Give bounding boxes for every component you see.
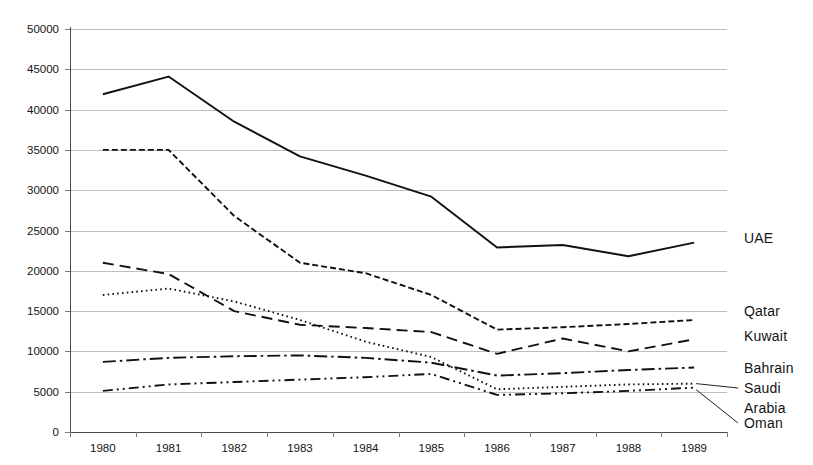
y-tick-label: 45000: [27, 63, 59, 75]
x-tick-label: 1986: [484, 442, 510, 454]
y-axis-tick-labels: 0500010000150002000025000300003500040000…: [27, 23, 70, 438]
x-tick-label: 1984: [353, 442, 379, 454]
series-label-saudi-arabia: Saudi: [744, 380, 781, 396]
y-tick-label: 0: [53, 426, 59, 438]
y-tick-label: 40000: [27, 104, 59, 116]
series-line-bahrain: [103, 355, 694, 375]
leader-lines-group: [696, 384, 738, 423]
series-label-kuwait: Kuwait: [744, 328, 787, 344]
leader-line-saudi-arabia: [696, 384, 738, 388]
series-label-uae: UAE: [744, 230, 773, 246]
y-tick-label: 25000: [27, 225, 59, 237]
series-labels-group: UAEQatarKuwaitBahrainSaudiArabiaOman: [744, 230, 794, 431]
series-line-saudi-arabia: [103, 289, 694, 390]
x-tick-label: 1983: [287, 442, 313, 454]
series-line-kuwait: [103, 263, 694, 354]
series-label-bahrain: Bahrain: [744, 360, 794, 376]
x-tick-label: 1985: [419, 442, 445, 454]
y-tick-label: 20000: [27, 265, 59, 277]
gridlines-group: [70, 30, 727, 433]
chart-canvas: 0500010000150002000025000300003500040000…: [0, 0, 813, 465]
y-tick-label: 50000: [27, 23, 59, 35]
series-label-oman: Oman: [744, 415, 783, 431]
series-label-qatar: Qatar: [744, 303, 780, 319]
x-tick-label: 1988: [616, 442, 642, 454]
y-tick-label: 15000: [27, 305, 59, 317]
x-axis-tick-labels: 1980198119821983198419851986198719881989: [90, 442, 707, 454]
x-tick-label: 1980: [90, 442, 116, 454]
y-tick-label: 10000: [27, 345, 59, 357]
x-tick-label: 1989: [681, 442, 707, 454]
leader-line-oman: [696, 390, 738, 423]
y-tick-label: 35000: [27, 144, 59, 156]
series-line-qatar: [103, 150, 694, 330]
x-tick-label: 1982: [221, 442, 247, 454]
y-tick-label: 30000: [27, 184, 59, 196]
x-tick-label: 1981: [156, 442, 182, 454]
series-line-uae: [103, 77, 694, 257]
y-tick-label: 5000: [33, 386, 59, 398]
line-chart: 0500010000150002000025000300003500040000…: [0, 0, 813, 465]
data-series-group: [103, 77, 694, 395]
x-tick-label: 1987: [550, 442, 576, 454]
series-label-saudi-arabia-line2: Arabia: [744, 400, 786, 416]
